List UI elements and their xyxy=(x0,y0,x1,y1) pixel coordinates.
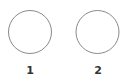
node-label: 1 xyxy=(26,64,34,77)
node-1[interactable]: 1 xyxy=(9,11,52,78)
diagram-canvas: 1 2 xyxy=(0,0,127,77)
circle-shape xyxy=(76,11,119,54)
node-2[interactable]: 2 xyxy=(76,11,119,78)
circle-shape xyxy=(9,11,52,54)
node-label: 2 xyxy=(94,64,102,77)
